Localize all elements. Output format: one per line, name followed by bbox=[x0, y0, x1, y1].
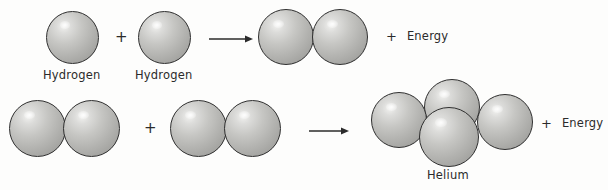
energy-output-row2: + Energy bbox=[541, 116, 603, 130]
plus-sign-row2: + bbox=[144, 121, 157, 136]
arrow-right-icon-row1 bbox=[209, 30, 253, 42]
sphere-deuterium-3b bbox=[224, 100, 281, 157]
energy-output-row1: + Energy bbox=[386, 29, 448, 43]
energy-plus-sign-row2: + bbox=[541, 117, 552, 130]
sphere-helium-front bbox=[419, 107, 479, 167]
energy-plus-sign-row1: + bbox=[386, 30, 397, 43]
energy-label-row2: Energy bbox=[562, 116, 603, 130]
sphere-deuterium-1a bbox=[258, 9, 314, 65]
sphere-deuterium-2a bbox=[9, 100, 66, 157]
plus-sign-row1: + bbox=[115, 30, 128, 45]
sphere-helium-right bbox=[477, 94, 533, 150]
label-helium: Helium bbox=[427, 168, 469, 182]
arrow-right-svg-2 bbox=[309, 125, 349, 137]
fusion-diagram: Hydrogen + Hydrogen + Energy + Helium bbox=[0, 0, 608, 190]
label-hydrogen-2: Hydrogen bbox=[135, 68, 193, 82]
sphere-hydrogen-2 bbox=[138, 11, 191, 64]
sphere-deuterium-1b bbox=[312, 9, 368, 65]
energy-label-row1: Energy bbox=[407, 29, 448, 43]
sphere-deuterium-2b bbox=[63, 100, 120, 157]
arrow-right-icon-row2 bbox=[309, 122, 349, 134]
label-hydrogen-1: Hydrogen bbox=[43, 68, 101, 82]
sphere-hydrogen-1 bbox=[46, 11, 99, 64]
sphere-deuterium-3a bbox=[170, 100, 227, 157]
arrow-right-svg bbox=[209, 33, 253, 45]
